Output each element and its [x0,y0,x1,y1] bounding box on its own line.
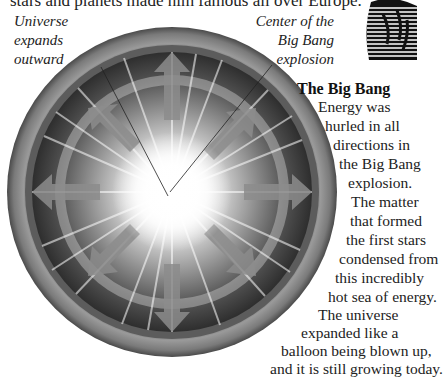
sidebar-line: explosion. [348,174,412,192]
sidebar-line: this incredibly [335,269,424,287]
sidebar-line: hurled in all [325,117,400,135]
sidebar-line: The universe [318,306,398,324]
caption-universe-expands: Universe expands outward [14,12,68,69]
sidebar-line: condensed from [339,250,438,268]
caption-center-of-big-bang: Center of the Big Bang explosion [222,12,334,69]
sidebar-heading: The Big Bang [297,80,390,98]
sidebar-line: the first stars [346,231,426,249]
sidebar-line: Energy was [318,98,390,116]
sidebar-line: hot sea of energy. [328,288,437,306]
sidebar-line: balloon being blown up, [281,342,432,360]
sidebar-line: directions in [333,136,410,154]
sidebar-line: expanded like a [301,324,398,342]
sidebar-line: The matter [351,193,419,211]
sidebar-line: that formed [350,212,422,230]
sidebar-line: and it is still growing today. [270,360,443,378]
sidebar-line: the Big Bang [339,155,421,173]
